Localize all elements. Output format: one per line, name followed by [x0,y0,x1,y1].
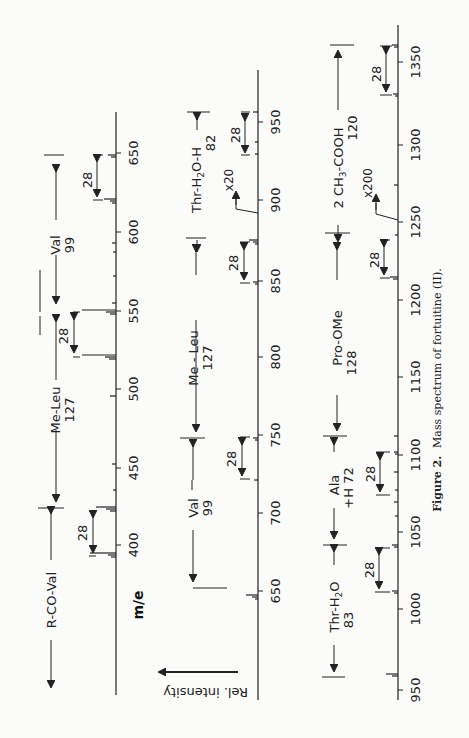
delta-28-label: 28 [75,525,90,542]
delta-28-label: 28 [228,127,243,144]
delta-28-label: 28 [369,66,384,83]
delta-28-label: 28 [56,328,71,345]
panel-1-ticks [116,153,121,545]
panel-3: 1350 1300 1250 1200 1150 1100 1050 1000 … [322,25,423,702]
mass-spectrum-figure: 650 600 550 500 450 400 [0,0,469,738]
x200-label: x200 [361,168,375,198]
panel-1-peaks [82,155,116,557]
delta-28-label: 28 [363,466,378,483]
loss-count-2ch3-cooh: 120 [345,116,360,141]
delta-28-label: 28 [226,255,241,272]
loss-count-thr-h2o-h: 82 [203,135,218,152]
loss-label-me-leu: Me - Leu [186,330,201,385]
panel-1: 650 600 550 500 450 400 [38,112,146,695]
loss-label-val: Val [48,235,63,254]
tick-label: 1050 [408,515,423,548]
figure-caption: Figure 2.Mass spectrum of fortuitine (II… [431,268,444,511]
tick-label: 700 [268,501,283,526]
loss-count-pro-ome: 128 [344,351,359,376]
x20-magnification-marker [236,193,258,213]
tick-label: 450 [126,456,141,481]
y-axis-label: Rel. intensity [163,685,248,700]
tick-label: 550 [126,299,141,324]
tick-label: 650 [268,579,283,604]
loss-count-val: 99 [200,500,215,517]
tick-label: 950 [268,110,283,135]
panel-2: 950 900 850 800 750 700 650 x20 [160,70,283,700]
delta-28-label: 28 [224,451,239,468]
panel-2-delta28 [240,112,250,479]
loss-count-thr-h2o: 83 [341,612,356,629]
tick-label: 850 [268,269,283,294]
panel-3-peaks [386,45,398,676]
tick-label: 600 [126,220,141,245]
tick-label: 1250 [408,205,423,238]
delta-28-label: 28 [367,252,382,269]
tick-label: 1100 [408,438,423,471]
loss-count-val: 99 [62,237,77,254]
loss-count-me-leu: 127 [200,346,215,371]
tick-label: 1150 [408,360,423,393]
x200-magnification-marker [376,196,398,220]
loss-label-thr-h2o-h: Thr-H2O-H [189,147,206,214]
x-axis-label: m/e [130,590,146,619]
loss-label-pro-ome: Pro-OMe [330,310,345,365]
loss-label-me-leu: Me-Leu [48,386,63,433]
delta-28-label: 28 [80,172,95,189]
tick-label: 500 [126,377,141,402]
delta-28-label: 28 [362,562,377,579]
tick-label: 900 [268,188,283,213]
panel-2-ticks [258,122,263,591]
panel-2-peaks [246,112,258,599]
tick-label: 400 [126,533,141,558]
tick-label: 650 [126,141,141,166]
panel-3-ticks [398,62,403,690]
x20-label: x20 [222,169,236,191]
tick-label: 1350 [408,45,423,78]
loss-label-rco-val: R-CO-Val [44,572,59,628]
tick-label: 1000 [408,592,423,625]
tick-label: 800 [268,345,283,370]
loss-count-me-leu: 127 [62,398,77,423]
loss-label-val: Val [186,498,201,517]
tick-label: 950 [408,678,423,703]
loss-count-ala: +H 72 [341,467,356,508]
tick-label: 1200 [408,283,423,316]
tick-label: 1300 [408,128,423,161]
tick-label: 750 [268,423,283,448]
loss-label-ala: Ala [327,475,342,495]
panel-3-delta28 [375,46,392,592]
